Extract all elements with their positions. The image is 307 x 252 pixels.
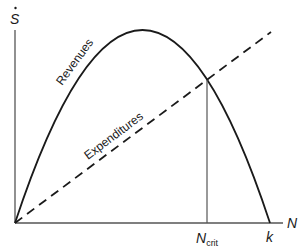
y-axis-dot: [14, 7, 16, 9]
y-axis-label: S: [10, 11, 20, 27]
n-crit-label: Ncrit: [196, 230, 219, 248]
k-label: k: [266, 229, 274, 245]
bioeconomic-diagram: S N Ncrit k Revenues Expenditures: [0, 0, 307, 252]
expenditures-label: Expenditures: [81, 109, 145, 162]
x-axis-label: N: [287, 215, 298, 231]
